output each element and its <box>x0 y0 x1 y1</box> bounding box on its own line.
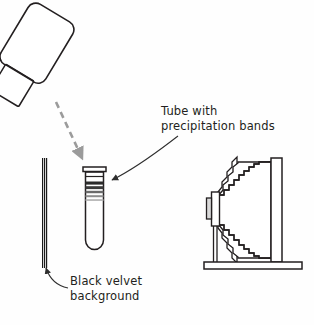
test-tube <box>83 167 106 250</box>
black-velvet-strip <box>42 158 48 268</box>
base-rail <box>204 262 302 269</box>
uv-lamp <box>0 0 77 111</box>
diagram-vector-layer <box>0 0 314 325</box>
screen-panel <box>271 158 282 262</box>
precipitation-band <box>85 195 104 197</box>
tube-callout-arrow <box>112 136 178 180</box>
eyepiece-cap <box>207 198 212 219</box>
light-beam-arrow <box>56 102 82 158</box>
precipitation-band <box>85 199 104 201</box>
precipitation-band <box>85 191 104 193</box>
label-tube-with-precipitation-bands: Tube with precipitation bands <box>161 104 275 133</box>
velvet-callout-arrow <box>46 268 68 288</box>
figure-canvas: Tube with precipitation bands Black velv… <box>0 0 314 325</box>
precipitation-band <box>85 186 104 189</box>
label-black-velvet-background: Black velvet background <box>70 274 142 303</box>
precipitation-band <box>85 182 104 185</box>
eyepiece-barrel <box>212 192 220 226</box>
tube-rim <box>83 167 106 172</box>
